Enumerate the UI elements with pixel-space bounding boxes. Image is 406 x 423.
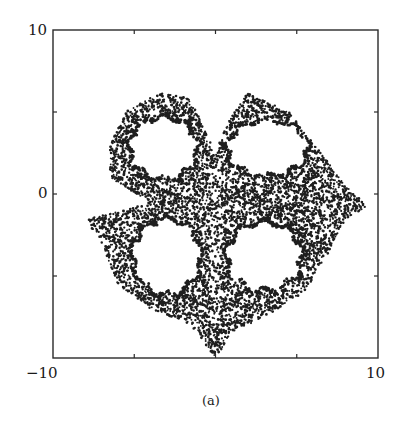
y-tick-label-top: 10 [28,23,47,38]
x-tick-label-right: 10 [366,366,385,381]
y-tick-label-zero: 0 [38,186,48,201]
figure-caption: (a) [202,393,220,408]
attractor-point-cloud [88,93,366,357]
x-tick-label-left: −10 [26,366,58,381]
figure-canvas [0,0,406,423]
